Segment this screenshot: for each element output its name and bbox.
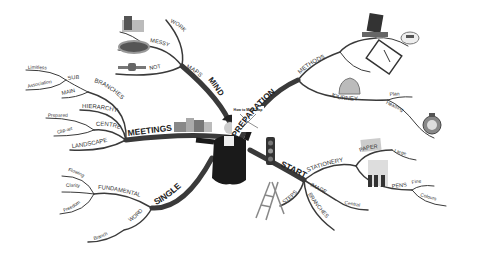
svg-text:Fine: Fine: [411, 178, 422, 185]
svg-text:Plan: Plan: [389, 90, 399, 96]
label-not: NOT: [149, 63, 162, 71]
label-association: Association: [27, 79, 52, 89]
label-work: WORK: [170, 17, 188, 32]
helmet-icon: [339, 78, 360, 94]
ladder-icon: [256, 182, 284, 220]
svg-text:MESSY: MESSY: [150, 37, 171, 48]
mind-map: How to Mind Map MIND MAPS WORK MESSY NOT…: [0, 0, 479, 253]
label-pens: PENS: [391, 181, 407, 189]
label-fine: Fine: [411, 178, 422, 185]
notebook-icon: [366, 40, 402, 74]
svg-text:SUB: SUB: [67, 74, 80, 81]
label-prepared: Prepared: [48, 113, 69, 118]
svg-text:Freedom: Freedom: [63, 200, 82, 213]
svg-text:METHODS: METHODS: [297, 53, 326, 74]
label-freedom: Freedom: [63, 200, 82, 213]
svg-text:PENS: PENS: [391, 181, 407, 189]
svg-text:Heading: Heading: [385, 99, 405, 113]
svg-text:Prepared: Prepared: [48, 113, 69, 118]
laptop-icon: [362, 13, 388, 37]
pen-tool-icon: [118, 63, 146, 71]
label-sub: SUB: [67, 74, 80, 81]
label-clarity: Clarity: [66, 183, 81, 189]
label-clipart: Clip-art: [56, 126, 73, 135]
label-landscape: LANDSCAPE: [71, 137, 108, 149]
label-methods: METHODS: [297, 53, 326, 74]
mouse-icon: [401, 32, 419, 44]
branch-mind: MIND MAPS WORK MESSY NOT: [149, 17, 226, 97]
label-plan: Plan: [389, 90, 399, 96]
svg-text:WORK: WORK: [170, 17, 188, 32]
label-main: MAIN: [61, 87, 76, 96]
label-heading: Heading: [385, 99, 405, 113]
label-messy: MESSY: [150, 37, 171, 48]
thumbs-down-icon: [122, 16, 144, 32]
svg-text:Colours: Colours: [420, 192, 438, 201]
cloud-badge-icon: [119, 41, 149, 53]
label-start: START: [279, 159, 309, 181]
svg-text:LANDSCAPE: LANDSCAPE: [71, 137, 108, 149]
svg-text:Clarity: Clarity: [66, 183, 81, 189]
compass-icon: [423, 113, 441, 134]
traffic-light-icon: [266, 137, 275, 165]
svg-text:BRANCHES: BRANCHES: [94, 77, 126, 100]
city-skyline-icon: [174, 118, 212, 132]
svg-text:FUNDAMENTAL: FUNDAMENTAL: [98, 184, 142, 198]
svg-text:Clip-art: Clip-art: [56, 126, 73, 135]
svg-text:NOT: NOT: [149, 63, 162, 71]
svg-text:MAIN: MAIN: [61, 87, 76, 96]
label-branches: BRANCHES: [94, 77, 126, 100]
label-fundamental: FUNDAMENTAL: [98, 184, 142, 198]
label-colours: Colours: [420, 192, 438, 201]
pens-icon: [368, 160, 388, 187]
svg-text:START: START: [279, 159, 309, 181]
svg-text:Association: Association: [27, 79, 52, 89]
